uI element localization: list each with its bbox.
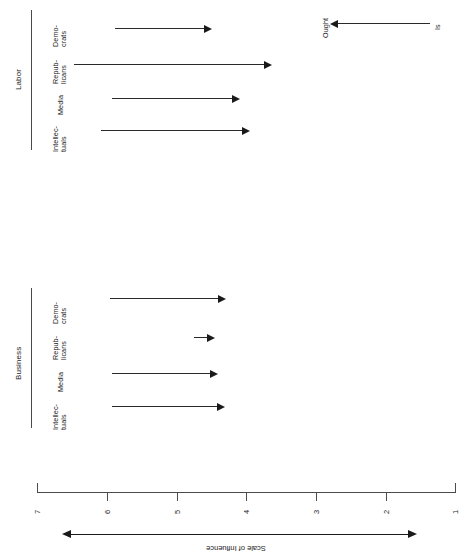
axis-tick-7 [37,483,38,493]
scale-direction-arrow [62,529,417,539]
axis-tick-label-3: 3 [312,510,321,514]
arrow-business-media [112,368,218,380]
arrow-shaft [112,98,232,99]
axis-tick-label-4: 4 [242,510,251,514]
arrow-head-right [408,530,417,538]
arrow-shaft [194,337,208,338]
arrow-head [217,403,225,411]
legend-label-is: Is [434,24,442,30]
arrow-shaft [112,406,217,407]
arrow-business-democrats [110,293,226,305]
arrow-labor-democrats [115,23,212,35]
arrow-shaft [338,23,430,24]
arrow-labor-republicans [74,59,272,71]
legend-arrow [330,18,430,30]
group-bracket-labor [31,10,32,150]
arrow-shaft [110,298,218,299]
axis-tick-label-6: 6 [103,510,112,514]
axis-tick-5 [177,492,178,501]
axis-tick-label-2: 2 [382,510,391,514]
arrow-labor-media [112,93,240,105]
row-label-business-democrats: Demo- crats [52,302,69,324]
arrow-head [232,95,240,103]
row-label-business-media: Media [57,372,65,392]
axis-tick-label-1: 1 [451,510,460,514]
row-label-business-republicans: Repub- licans [52,336,69,360]
row-label-labor-intellectuals: Intellec- tuals [52,126,69,152]
arrow-shaft [70,534,409,535]
arrow-shaft [101,130,242,131]
row-label-labor-democrats: Demo- crats [52,25,69,47]
axis-tick-2 [386,492,387,501]
legend-is-ought: Ought Is [300,8,460,34]
arrow-head [210,370,218,378]
arrow-business-intellectuals [112,401,225,413]
group-label-labor: Labor [15,69,23,90]
arrow-head [264,61,272,69]
group-bracket-business [31,288,32,428]
axis-tick-3 [316,492,317,501]
axis-tick-label-7: 7 [33,510,42,514]
group-label-business: Business [15,347,23,380]
row-label-business-intellectuals: Intellec- tuals [52,404,69,430]
arrow-shaft [112,373,210,374]
row-label-labor-media: Media [57,95,65,115]
axis-tick-label-5: 5 [173,510,182,514]
axis-title: Scale of Influence [0,544,472,553]
arrow-head [207,334,215,342]
row-label-labor-republicans: Repub- licans [52,60,69,84]
axis-tick-4 [246,492,247,501]
arrow-shaft [115,28,204,29]
arrow-labor-intellectuals [101,125,250,137]
axis-tick-6 [107,492,108,501]
arrow-head [204,25,212,33]
arrow-business-republicans [194,332,216,344]
arrow-shaft [74,64,264,65]
arrow-head [330,20,338,28]
influence-chart: Labor Intellec- tuals Media Repub- lican… [0,0,472,558]
arrow-head [218,295,226,303]
axis-tick-1 [455,483,456,493]
arrow-head [242,127,250,135]
